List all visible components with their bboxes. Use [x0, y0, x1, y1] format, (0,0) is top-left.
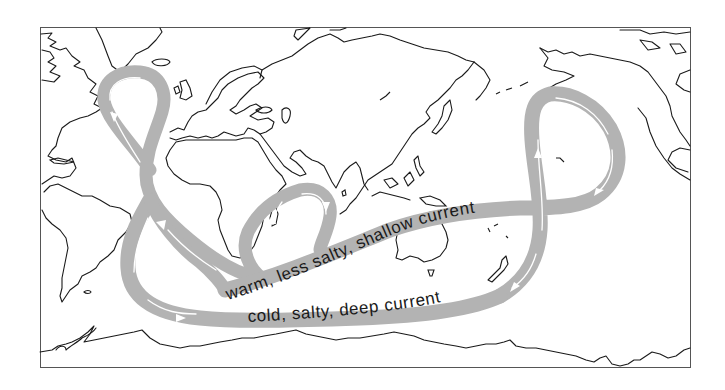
- coast-arctic-russia: [262, 34, 474, 70]
- coast-tasmania: [428, 270, 434, 276]
- conveyor-belt: [104, 72, 618, 322]
- coast-europe: [170, 72, 274, 140]
- coast-central-america: [638, 108, 690, 180]
- coast-novaya-zemlya: [294, 28, 310, 40]
- coast-gulf-mexico: [668, 148, 690, 172]
- coast-greenland: [96, 28, 162, 72]
- coast-canada-arctic: [620, 30, 690, 54]
- coast-south-america: [42, 184, 132, 302]
- coast-east-asia: [340, 62, 474, 214]
- coast-middle-east: [260, 134, 368, 190]
- coast-indonesia: [372, 172, 414, 200]
- coast-hudson-bay: [676, 70, 690, 92]
- coast-japan: [432, 100, 452, 134]
- coast-taymyr: [330, 28, 346, 30]
- coast-hawaii: [556, 158, 564, 162]
- coast-caspian: [282, 108, 290, 123]
- coast-antarctica: [40, 326, 690, 366]
- coast-aleutians: [496, 82, 528, 94]
- ocean-conveyor-diagram: warm, less salty, shallow current cold, …: [0, 0, 725, 390]
- coast-philippines: [414, 156, 424, 176]
- coast-britain: [180, 80, 192, 100]
- coast-scandinavia: [206, 66, 262, 104]
- coast-iceland: [152, 59, 170, 66]
- coast-falklands: [84, 291, 91, 294]
- coast-antarctic-peninsula: [56, 328, 96, 350]
- coast-siberia-lake: [380, 92, 390, 100]
- coast-canada-islands: [42, 50, 60, 82]
- coast-pacific-islands: [488, 224, 508, 238]
- coast-kamchatka: [474, 62, 490, 100]
- coast-sri-lanka: [342, 190, 346, 196]
- conveyor-band-south-atlantic: [150, 200, 225, 290]
- coast-ireland: [174, 86, 180, 94]
- coast-new-zealand: [488, 256, 508, 282]
